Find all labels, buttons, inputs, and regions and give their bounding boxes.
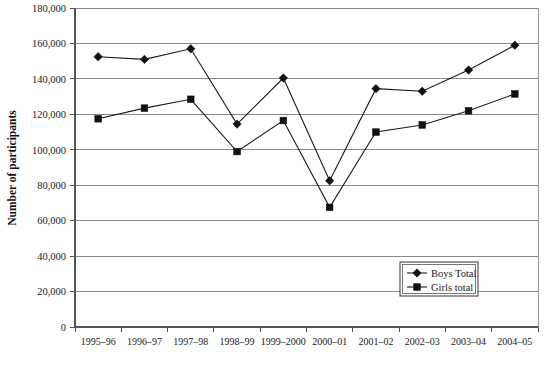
y-tick-label: 100,000 <box>32 145 66 156</box>
x-axis-ticks-group: 1995–961996–971997–981998–991999–2000200… <box>75 327 538 347</box>
y-tick-label: 180,000 <box>32 3 66 14</box>
y-tick-label: 80,000 <box>37 180 66 191</box>
x-tick-label: 2001–02 <box>358 336 393 347</box>
y-tick-label: 60,000 <box>37 215 66 226</box>
y-tick-label: 120,000 <box>32 109 66 120</box>
y-tick-label: 140,000 <box>32 74 66 85</box>
y-axis-title: Number of participants <box>6 110 19 226</box>
square-marker-icon <box>141 105 148 112</box>
x-tick-label: 2004–05 <box>497 336 532 347</box>
y-axis-ticks-group: 020,00040,00060,00080,000100,000120,0001… <box>32 3 75 333</box>
y-tick-label: 40,000 <box>37 251 66 262</box>
square-marker-icon <box>414 284 421 291</box>
square-marker-icon <box>419 122 426 129</box>
x-tick-label: 1999–2000 <box>261 336 306 347</box>
legend-entry-label: Girls total <box>431 282 473 293</box>
x-tick-label: 1996–97 <box>127 336 162 347</box>
x-tick-label: 1998–99 <box>220 336 255 347</box>
x-tick-label: 2002–03 <box>405 336 440 347</box>
y-tick-label: 0 <box>61 322 66 333</box>
x-tick-label: 2000–01 <box>312 336 347 347</box>
chart-legend: Boys TotalGirls total <box>400 262 478 296</box>
square-marker-icon <box>326 204 333 211</box>
square-marker-icon <box>465 107 472 114</box>
square-marker-icon <box>512 91 519 98</box>
x-tick-label: 1995–96 <box>81 336 116 347</box>
square-marker-icon <box>373 129 380 136</box>
square-marker-icon <box>234 148 241 155</box>
legend-entry-label: Boys Total <box>431 268 477 279</box>
chart-canvas: 020,00040,00060,00080,000100,000120,0001… <box>0 0 550 366</box>
square-marker-icon <box>187 96 194 103</box>
x-tick-label: 1997–98 <box>173 336 208 347</box>
x-tick-label: 2003–04 <box>451 336 486 347</box>
square-marker-icon <box>280 117 287 124</box>
square-marker-icon <box>95 115 102 122</box>
y-tick-label: 160,000 <box>32 38 66 49</box>
line-chart-figure: 020,00040,00060,00080,000100,000120,0001… <box>0 0 550 366</box>
y-tick-label: 20,000 <box>37 286 66 297</box>
